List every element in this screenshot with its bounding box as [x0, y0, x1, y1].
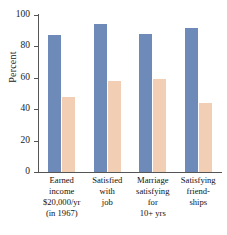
x-label-line: Satisfying: [170, 175, 227, 186]
bar-blue-series-1: [94, 24, 107, 172]
bar-peach-series-3: [199, 103, 212, 172]
bar-blue-series-3: [185, 28, 198, 172]
plot-area: [39, 15, 221, 172]
y-tick-label: 20: [4, 136, 30, 146]
x-label-line: friend-: [170, 186, 227, 197]
y-tick-label: 100: [4, 10, 30, 20]
x-label-line: (in 1967): [33, 208, 91, 219]
y-tick-label: 0: [4, 167, 30, 177]
bar-chart: Percent 020406080100 Earnedincome$20,000…: [0, 0, 226, 235]
bar-blue-series-0: [48, 35, 61, 172]
bar-peach-series-2: [153, 79, 166, 172]
bar-blue-series-2: [139, 34, 152, 172]
y-tick-label: 60: [4, 73, 30, 83]
bar-peach-series-1: [108, 81, 121, 172]
y-tick-label: 80: [4, 41, 30, 51]
x-axis-line: [38, 172, 222, 173]
x-label-line: ships: [170, 197, 227, 208]
x-axis-category-label: Satisfyingfriend-ships: [170, 175, 227, 208]
y-tick-label: 40: [4, 104, 30, 114]
x-label-line: 10+ yrs: [124, 208, 182, 219]
bar-peach-series-0: [62, 97, 75, 172]
x-axis-labels: Earnedincome$20,000/yr(in 1967)Satisfied…: [39, 175, 223, 235]
